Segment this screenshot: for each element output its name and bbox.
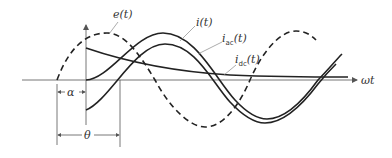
label-e-t: e(t) <box>113 8 133 21</box>
leader-idc <box>224 65 236 75</box>
label-theta: θ <box>84 129 91 142</box>
label-idc-t: idc(t) <box>235 53 260 68</box>
label-omega-t: ωt <box>361 74 375 87</box>
leader-e <box>109 22 118 34</box>
label-iac-t: iac(t) <box>222 32 247 47</box>
curve-e-t <box>57 31 316 127</box>
waveform-diagram: e(t) i(t) iac(t) idc(t) ωt α θ <box>0 0 392 158</box>
curve-i-dc-t <box>86 48 348 77</box>
label-i-t: i(t) <box>196 16 213 29</box>
label-alpha: α <box>67 86 75 99</box>
leader-i <box>180 26 195 41</box>
leader-iac <box>198 42 222 54</box>
